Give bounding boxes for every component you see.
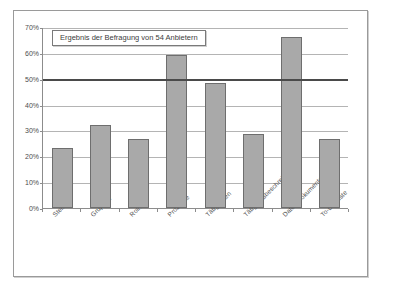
gridline-60 — [43, 54, 348, 55]
y-tick-label: 70% — [25, 24, 39, 32]
plot-area — [42, 28, 348, 209]
chart-title: Ergebnis der Befragung von 54 Anbietern — [52, 30, 206, 46]
y-tick-label: 30% — [25, 127, 39, 135]
x-tick-mark — [310, 209, 311, 212]
y-tick-label: 0% — [29, 205, 39, 213]
x-tick-mark — [80, 209, 81, 212]
chart-figure: 70%60%50%40%30%20%10%0% StellenGruppenRo… — [0, 0, 406, 292]
bar — [52, 148, 73, 208]
y-tick-label: 40% — [25, 102, 39, 110]
y-tick-mark — [40, 131, 43, 132]
x-tick-mark — [233, 209, 234, 212]
y-axis-labels: 70%60%50%40%30%20%10%0% — [14, 28, 39, 209]
x-tick-mark — [119, 209, 120, 212]
y-tick-mark — [40, 157, 43, 158]
bar — [205, 83, 226, 208]
bar — [90, 125, 111, 208]
gridline-70 — [43, 28, 348, 29]
bar — [319, 139, 340, 208]
gridline-40 — [43, 106, 348, 107]
x-tick-mark — [157, 209, 158, 212]
bar — [128, 139, 149, 208]
y-tick-label: 10% — [25, 179, 39, 187]
bar — [281, 37, 302, 208]
y-tick-mark — [40, 28, 43, 29]
bar — [243, 134, 264, 208]
gridline-30 — [43, 131, 348, 132]
y-tick-label: 60% — [25, 50, 39, 58]
y-tick-mark — [40, 106, 43, 107]
reference-line-50 — [43, 79, 348, 81]
y-tick-label: 50% — [25, 76, 39, 84]
x-axis-labels: StellenGruppenRollenProzesseTätigkeitenT… — [42, 213, 348, 283]
y-tick-mark — [40, 54, 43, 55]
x-tick-mark — [348, 209, 349, 212]
gridline-10 — [43, 183, 348, 184]
y-tick-mark — [40, 183, 43, 184]
x-tick-mark — [42, 209, 43, 212]
x-tick-mark — [272, 209, 273, 212]
y-tick-label: 20% — [25, 153, 39, 161]
gridline-20 — [43, 157, 348, 158]
x-tick-mark — [195, 209, 196, 212]
